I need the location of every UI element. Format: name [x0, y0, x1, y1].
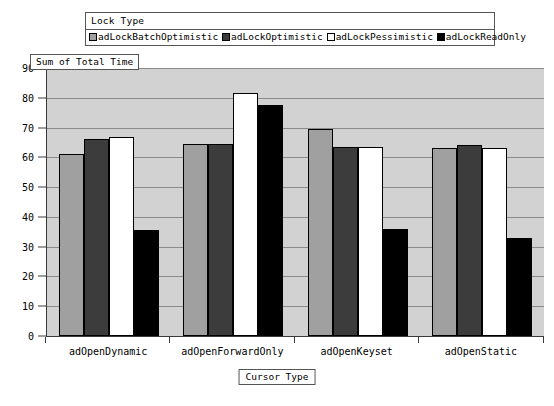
bar[interactable] [233, 93, 258, 336]
legend-swatch-icon [89, 33, 97, 41]
y-axis-tick-mark [38, 306, 46, 307]
legend-swatch-icon [327, 33, 335, 41]
bar[interactable] [507, 238, 532, 336]
bar[interactable] [208, 144, 233, 336]
bar[interactable] [457, 145, 482, 336]
bar-group [171, 68, 295, 336]
legend-swatch-icon [437, 33, 445, 41]
bar[interactable] [482, 148, 507, 336]
bar[interactable] [109, 137, 134, 337]
x-axis-tick-label: adOpenStatic [445, 346, 517, 357]
x-axis-tick: adOpenForwardOnly [170, 337, 294, 363]
legend: Lock Type adLockBatchOptimisticadLockOpt… [85, 12, 495, 46]
legend-item: adLockOptimistic [222, 32, 323, 42]
bar[interactable] [383, 229, 408, 336]
y-axis-tick-label: 20 [22, 271, 34, 282]
y-axis-tick-label: 60 [22, 152, 34, 163]
legend-item-label: adLockPessimistic [336, 32, 433, 42]
x-axis: adOpenDynamicadOpenForwardOnlyadOpenKeys… [46, 337, 543, 363]
legend-items: adLockBatchOptimisticadLockOptimisticadL… [86, 30, 494, 45]
legend-title: Lock Type [91, 15, 144, 26]
legend-item-label: adLockBatchOptimistic [98, 32, 218, 42]
bar[interactable] [333, 147, 358, 336]
bar[interactable] [432, 148, 457, 336]
bar-group [47, 68, 171, 336]
legend-item-label: adLockReadOnly [446, 32, 526, 42]
x-axis-tick-mark [543, 337, 544, 343]
legend-title-row: Lock Type [86, 13, 494, 30]
legend-item: adLockReadOnly [437, 32, 526, 42]
bar-group [420, 68, 544, 336]
y-axis-tick-label: 30 [22, 241, 34, 252]
bar-group [296, 68, 420, 336]
x-axis-tick: adOpenDynamic [46, 337, 170, 363]
x-axis-tick-label: adOpenForwardOnly [181, 346, 283, 357]
y-axis-tick-mark [38, 187, 46, 188]
y-axis-tick-label: 10 [22, 301, 34, 312]
x-axis-tick-label: adOpenDynamic [69, 346, 147, 357]
y-axis: 0102030405060708090 [0, 68, 46, 336]
y-axis-tick-mark [38, 127, 46, 128]
legend-item-label: adLockOptimistic [231, 32, 323, 42]
x-axis-tick-mark [45, 337, 46, 343]
bar[interactable] [183, 144, 208, 336]
legend-item: adLockPessimistic [327, 32, 433, 42]
bar[interactable] [59, 154, 84, 336]
bars-layer [47, 68, 544, 336]
bar[interactable] [358, 147, 383, 336]
bar[interactable] [308, 129, 333, 336]
x-axis-tick-label: adOpenKeyset [321, 346, 393, 357]
plot-area [46, 68, 544, 337]
bar[interactable] [258, 105, 283, 336]
y-axis-tick-label: 70 [22, 122, 34, 133]
bar[interactable] [84, 139, 109, 336]
bar[interactable] [134, 230, 159, 336]
y-axis-tick-label: 40 [22, 211, 34, 222]
legend-item: adLockBatchOptimistic [89, 32, 218, 42]
y-axis-tick-label: 50 [22, 182, 34, 193]
y-axis-title-label: Sum of Total Time [36, 56, 133, 67]
y-axis-tick-label: 80 [22, 92, 34, 103]
x-axis-tick: adOpenStatic [419, 337, 543, 363]
y-axis-tick-mark [38, 276, 46, 277]
x-axis-tick-mark [169, 337, 170, 343]
y-axis-tick-mark [38, 157, 46, 158]
x-axis-tick: adOpenKeyset [295, 337, 419, 363]
legend-swatch-icon [222, 33, 230, 41]
x-axis-title: Cursor Type [239, 369, 316, 385]
y-axis-tick-mark [38, 216, 46, 217]
x-axis-tick-mark [294, 337, 295, 343]
x-axis-title-label: Cursor Type [246, 371, 309, 382]
y-axis-tick-mark [38, 246, 46, 247]
y-axis-tick-mark [38, 97, 46, 98]
y-axis-title: Sum of Total Time [30, 54, 139, 70]
x-axis-tick-mark [418, 337, 419, 343]
y-axis-tick-label: 0 [28, 331, 34, 342]
